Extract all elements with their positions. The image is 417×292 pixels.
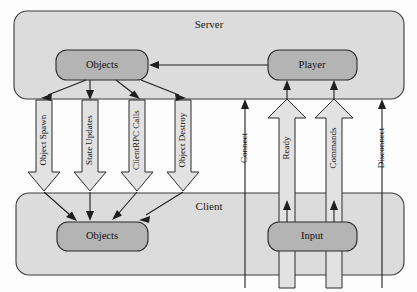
- flow-arrow-state-updates: State Updates: [74, 100, 106, 191]
- server-objects-label: Objects: [86, 59, 118, 70]
- disconnect-arrowhead: [378, 99, 386, 109]
- connect-arrowhead: [241, 99, 249, 109]
- server-player-label: Player: [299, 59, 326, 70]
- disconnect-label: Disconnect: [376, 127, 386, 168]
- state-updates-label: State Updates: [84, 115, 94, 165]
- flow-arrow-object-destroy: Object Destroy: [167, 100, 199, 191]
- diagram-root: Server Client Object Spawn State Updates…: [0, 0, 417, 292]
- client-input-label: Input: [301, 230, 323, 241]
- object-destroy-label: Object Destroy: [177, 112, 187, 167]
- client-objects-label: Objects: [86, 230, 118, 241]
- client-container-label: Client: [196, 200, 223, 212]
- node-client-objects: Objects: [57, 222, 148, 251]
- node-server-objects: Objects: [56, 50, 148, 80]
- clientrpc-calls-label: ClientRPC Calls: [131, 110, 141, 170]
- connect-label: Connect: [239, 133, 249, 163]
- network-flow-diagram: Server Client Object Spawn State Updates…: [0, 0, 417, 292]
- object-spawn-label: Object Spawn: [38, 114, 48, 165]
- server-container-label: Server: [195, 18, 224, 30]
- node-server-player: Player: [268, 50, 357, 80]
- commands-label: Commands: [328, 127, 338, 168]
- flow-arrow-clientrpc-calls: ClientRPC Calls: [121, 100, 153, 191]
- flow-arrow-object-spawn: Object Spawn: [28, 100, 60, 191]
- ready-label: Ready: [281, 136, 291, 159]
- node-client-input: Input: [268, 222, 357, 251]
